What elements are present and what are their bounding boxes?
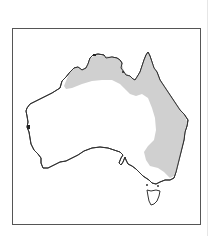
bass-strait-island-mark-2 [157, 185, 159, 187]
australia-distribution-map [0, 0, 211, 236]
kimberley-island-mark [93, 54, 96, 56]
bass-strait-island-mark [146, 184, 148, 186]
gulf-island-mark [122, 71, 124, 73]
shark-bay-mark [27, 125, 30, 129]
tasmania [147, 190, 160, 205]
